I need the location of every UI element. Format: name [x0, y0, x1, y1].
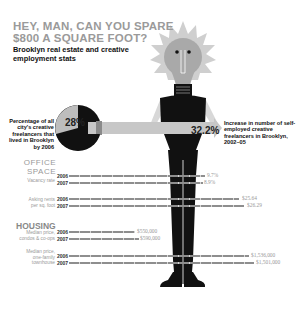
bar-rents-2006: [69, 198, 239, 200]
condos-line2: condos & co-ops: [5, 236, 55, 242]
year-label: 2007: [57, 260, 68, 266]
year-label: 2006: [57, 196, 68, 202]
bar-vacancy-2007: [69, 182, 203, 184]
category-condos: Median price, condos & co-ops: [5, 230, 55, 241]
year-label: 2007: [57, 236, 68, 242]
value-label: $26.29: [247, 202, 262, 208]
year-label: 2006: [57, 253, 68, 259]
year-label: 2007: [57, 203, 68, 209]
bar-condos-2007: [69, 238, 139, 240]
year-label: 2006: [57, 173, 68, 179]
value-label: $1,536,000: [251, 252, 275, 258]
townhouse-line3: townhouse: [5, 260, 55, 266]
arrow-value: 32.2%: [191, 125, 219, 136]
value-label: $25.64: [242, 195, 257, 201]
value-label: $1,501,000: [256, 259, 280, 265]
category-asking-rents: Asking rents per sq. foot: [5, 197, 55, 208]
year-label: 2007: [57, 180, 68, 186]
value-label: $590,000: [140, 235, 160, 241]
bar-townhouse-2006: [69, 255, 249, 257]
office-space-heading: OFFICE SPACE: [16, 159, 56, 176]
category-vacancy-rate: Vacancy rate: [5, 178, 55, 184]
arrow-caption: Increase in number of self-employed crea…: [224, 120, 301, 146]
title-line-2: $800 A SQUARE FOOT?: [13, 32, 174, 44]
pie-value: 28%: [65, 117, 85, 128]
asking-rents-line2: per sq. foot: [5, 203, 55, 209]
bar-townhouse-2007: [69, 262, 254, 264]
bar-condos-2006: [69, 231, 135, 233]
bar-vacancy-2006: [69, 175, 205, 177]
pie-caption: Percentage of all city's creative freela…: [4, 118, 54, 150]
bar-rents-2007: [69, 205, 244, 207]
value-label: $550,000: [137, 228, 157, 234]
value-label: 8.9%: [204, 179, 215, 185]
category-townhouse: Median price, one-family townhouse: [5, 249, 55, 266]
year-label: 2006: [57, 229, 68, 235]
chart-subtitle: Brooklyn real estate and creative employ…: [13, 46, 133, 63]
title-line-1: HEY, MAN, CAN YOU SPARE: [13, 20, 174, 32]
value-label: 9.7%: [207, 172, 218, 178]
office-heading-line2: SPACE: [16, 168, 56, 177]
chart-title: HEY, MAN, CAN YOU SPARE $800 A SQUARE FO…: [13, 20, 174, 44]
